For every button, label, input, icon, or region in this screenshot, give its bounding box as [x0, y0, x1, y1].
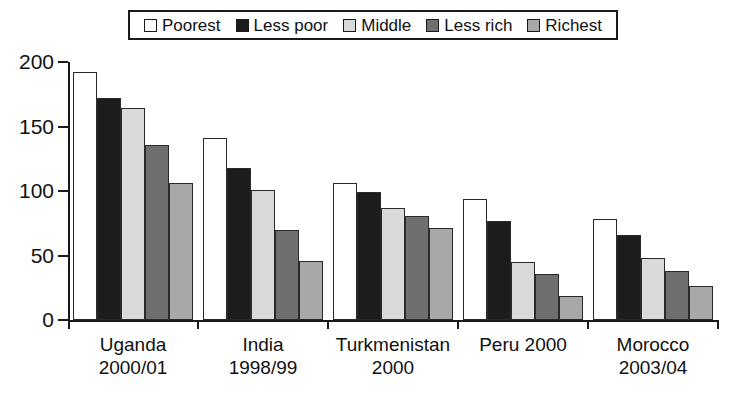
bar-group	[333, 62, 453, 320]
bar[interactable]	[121, 108, 145, 320]
y-axis-tick-label: 0	[2, 309, 54, 330]
x-axis-tick	[327, 320, 329, 329]
x-axis-group-label-line: Uganda	[68, 333, 198, 356]
x-axis-group-label-line: India	[198, 333, 328, 356]
x-axis-group-label: Uganda2000/01	[68, 333, 198, 379]
y-axis-tick-label: 150	[2, 116, 54, 137]
legend-entry[interactable]: Poorest	[144, 17, 221, 34]
legend-entry[interactable]: Less rich	[426, 17, 512, 34]
bar[interactable]	[357, 192, 381, 320]
x-axis-tick	[587, 320, 589, 329]
y-axis-tick	[58, 126, 68, 128]
bar[interactable]	[511, 262, 535, 320]
bar[interactable]	[169, 183, 193, 320]
x-axis-group-label-line: 2000	[328, 356, 458, 379]
bar[interactable]	[559, 296, 583, 321]
legend-entry[interactable]: Less poor	[236, 17, 329, 34]
legend-entry[interactable]: Richest	[527, 17, 602, 34]
y-axis-tick-label: 200	[2, 51, 54, 72]
bar-group	[593, 62, 713, 320]
bar[interactable]	[227, 168, 251, 320]
bar[interactable]	[97, 98, 121, 320]
bar[interactable]	[405, 216, 429, 320]
legend-swatch-icon	[343, 19, 356, 32]
x-axis-tick	[68, 320, 70, 329]
bar-group	[73, 62, 193, 320]
x-axis-group-label-line: 2000/01	[68, 356, 198, 379]
bar[interactable]	[641, 258, 665, 320]
bar[interactable]	[429, 228, 453, 320]
bar[interactable]	[463, 199, 487, 320]
x-axis-group-label-line: Turkmenistan	[328, 333, 458, 356]
chart-legend: PoorestLess poorMiddleLess richRichest	[128, 10, 618, 40]
legend-swatch-icon	[527, 19, 540, 32]
y-axis-tick-label: 100	[2, 180, 54, 201]
bar[interactable]	[665, 271, 689, 320]
legend-swatch-icon	[236, 19, 249, 32]
x-axis-group-label-line: Morocco	[588, 333, 718, 356]
y-axis-tick	[58, 61, 68, 63]
y-axis-tick	[58, 319, 68, 321]
bar[interactable]	[381, 208, 405, 320]
y-axis-tick	[58, 190, 68, 192]
bar[interactable]	[593, 219, 617, 320]
bar[interactable]	[617, 235, 641, 320]
legend-label: Middle	[361, 17, 411, 34]
x-axis-group-label: Peru 2000	[458, 333, 588, 356]
legend-entry[interactable]: Middle	[343, 17, 411, 34]
legend-swatch-icon	[144, 19, 157, 32]
bar[interactable]	[275, 230, 299, 320]
x-axis-group-label: Turkmenistan2000	[328, 333, 458, 379]
bar[interactable]	[145, 145, 169, 320]
bar[interactable]	[689, 286, 713, 320]
bar[interactable]	[251, 190, 275, 320]
plot-area	[68, 62, 716, 320]
y-axis-labels: 050100150200	[0, 0, 54, 396]
x-axis-group-label-line: 1998/99	[198, 356, 328, 379]
bar[interactable]	[73, 72, 97, 320]
bar[interactable]	[333, 183, 357, 320]
bar-group	[203, 62, 323, 320]
x-axis-group-label-line: 2003/04	[588, 356, 718, 379]
x-axis-tick	[197, 320, 199, 329]
bar[interactable]	[203, 138, 227, 320]
x-axis-group-label: Morocco2003/04	[588, 333, 718, 379]
x-axis-tick	[457, 320, 459, 329]
x-axis-group-label: India1998/99	[198, 333, 328, 379]
x-axis-line	[68, 320, 718, 322]
bar-group	[463, 62, 583, 320]
bar[interactable]	[487, 221, 511, 320]
legend-label: Poorest	[162, 17, 221, 34]
legend-swatch-icon	[426, 19, 439, 32]
y-axis-tick	[58, 255, 68, 257]
bar[interactable]	[299, 261, 323, 320]
chart-page: PoorestLess poorMiddleLess richRichest 0…	[0, 0, 746, 396]
legend-label: Richest	[545, 17, 602, 34]
y-axis-tick-label: 50	[2, 245, 54, 266]
legend-label: Less rich	[444, 17, 512, 34]
x-axis-tick	[717, 320, 719, 329]
x-axis-group-label-line: Peru 2000	[458, 333, 588, 356]
legend-label: Less poor	[254, 17, 329, 34]
bar[interactable]	[535, 274, 559, 320]
